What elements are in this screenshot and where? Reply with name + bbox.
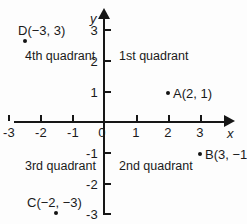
data-point-a-label: A(2, 1)	[173, 87, 212, 100]
x-tick-mark	[200, 115, 202, 121]
y-tick-mark	[105, 29, 111, 31]
y-tick-label: 1	[72, 86, 98, 99]
origin-label: 0	[89, 126, 115, 139]
y-tick-mark	[105, 213, 111, 215]
data-point-c-label: C(−2, −3)	[27, 196, 82, 209]
x-tick-mark	[8, 115, 10, 121]
y-tick-mark	[105, 60, 111, 62]
data-point-b	[198, 152, 202, 156]
y-tick-mark	[105, 183, 111, 185]
x-tick-label: 2	[155, 126, 181, 139]
y-tick-label: -2	[72, 178, 98, 191]
x-tick-label: 1	[123, 126, 149, 139]
y-axis-arrowhead-icon	[98, 8, 110, 19]
quadrant-label-second: 2nd quadrant	[119, 160, 193, 173]
y-tick-label: 3	[72, 24, 98, 37]
data-point-c	[54, 211, 58, 215]
x-tick-label: 3	[187, 126, 213, 139]
data-point-d-label: D(−3, 3)	[18, 24, 65, 37]
x-axis-label: x	[227, 127, 234, 140]
x-axis-line	[14, 121, 226, 123]
y-tick-mark	[105, 91, 111, 93]
y-tick-mark	[105, 152, 111, 154]
data-point-b-label: B(3, −1)	[205, 148, 247, 161]
x-tick-mark	[168, 115, 170, 121]
coordinate-plane-figure: x y -3 -2 -1 0 1 2 3 3 2 1 -1 -2 -3 A(2,…	[0, 0, 247, 224]
x-tick-mark	[40, 115, 42, 121]
x-tick-mark	[136, 115, 138, 121]
x-tick-label: -3	[0, 126, 22, 139]
x-tick-label: -1	[60, 126, 86, 139]
quadrant-label-third: 3rd quadrant	[25, 160, 96, 173]
data-point-d	[23, 39, 27, 43]
y-axis-line	[103, 16, 105, 215]
quadrant-label-first: 1st quadrant	[119, 50, 189, 63]
data-point-a	[166, 91, 170, 95]
x-tick-mark	[72, 115, 74, 121]
x-tick-label: -2	[28, 126, 54, 139]
quadrant-label-fourth: 4th quadrant	[25, 50, 95, 63]
